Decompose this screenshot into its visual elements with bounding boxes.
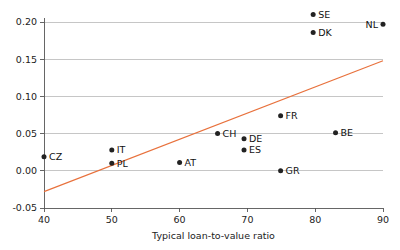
data-point-label: SE [318,9,330,20]
data-point-label: DE [249,133,262,144]
x-tick-label: 40 [38,214,50,225]
x-tick-label: 90 [377,214,389,225]
data-point[interactable] [42,154,47,159]
data-point[interactable] [311,30,316,35]
data-point[interactable] [109,147,114,152]
y-tick-label: 0.20 [16,16,37,27]
data-point-label: NL [366,19,379,30]
data-point[interactable] [333,130,338,135]
data-point[interactable] [109,161,114,166]
data-point-label: BE [341,127,354,138]
regression-line [44,61,383,192]
data-points-group: CZPLITATCHDEESGRFRBEDKSENL [42,9,386,176]
y-tick-label: 0.15 [16,54,37,65]
x-axis-title: Typical loan-to-value ratio [151,230,275,241]
data-point[interactable] [381,22,386,27]
scatter-chart: CZPLITATCHDEESGRFRBEDKSENL -0.050.000.05… [0,0,400,250]
data-point-label: PL [117,158,129,169]
data-point-label: IT [117,144,126,155]
x-tick-label: 50 [106,214,118,225]
data-point-label: FR [286,110,298,121]
plot-area: CZPLITATCHDEESGRFRBEDKSENL -0.050.000.05… [0,0,400,250]
y-tick-label: 0.05 [16,128,37,139]
data-point[interactable] [278,168,283,173]
x-tick-label: 60 [174,214,186,225]
x-tick-label: 70 [241,214,253,225]
gridlines-group [44,22,383,171]
data-point[interactable] [242,136,247,141]
trend-line-group [44,61,383,192]
data-point[interactable] [242,147,247,152]
data-point-label: AT [185,157,197,168]
data-point-label: DK [318,27,332,38]
data-point-label: ES [249,144,261,155]
data-point[interactable] [311,12,316,17]
axes-group [40,18,383,212]
data-point-label: CH [223,128,237,139]
data-point[interactable] [278,113,283,118]
y-tick-label: 0.10 [16,91,37,102]
data-point-label: GR [286,165,300,176]
y-tick-label: -0.05 [12,202,37,213]
data-point[interactable] [215,131,220,136]
tick-labels-group: -0.050.000.050.100.150.20405060708090 [12,16,389,225]
data-point[interactable] [177,160,182,165]
y-tick-label: 0.00 [16,165,37,176]
data-point-label: CZ [49,151,63,162]
x-tick-label: 80 [309,214,321,225]
